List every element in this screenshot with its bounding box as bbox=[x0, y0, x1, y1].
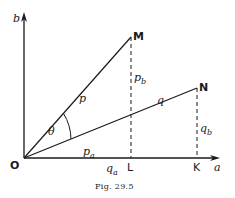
svg-text:p: p bbox=[134, 71, 141, 84]
svg-text:a: a bbox=[113, 168, 118, 177]
figure-caption: Fig. 29.5 bbox=[95, 182, 134, 191]
q-a-label: q a bbox=[106, 162, 118, 177]
point-K-label: K bbox=[193, 161, 201, 174]
svg-text:b: b bbox=[207, 128, 212, 137]
vector-q bbox=[24, 88, 197, 158]
a-axis-label: a bbox=[214, 161, 221, 174]
vector-projection-diagram: b a O p q M N L K p b q b p a q a θ Fig.… bbox=[0, 0, 235, 198]
b-axis-label: b bbox=[13, 12, 20, 25]
svg-text:q: q bbox=[106, 162, 113, 175]
origin-label: O bbox=[10, 159, 19, 172]
vector-p bbox=[24, 37, 131, 158]
vector-q-label: q bbox=[157, 94, 164, 107]
angle-theta-arc bbox=[64, 114, 72, 140]
vector-p-label: p bbox=[79, 92, 86, 105]
point-N-label: N bbox=[199, 81, 208, 94]
point-L-label: L bbox=[127, 161, 134, 174]
p-a-label: p a bbox=[83, 145, 95, 160]
svg-text:p: p bbox=[83, 145, 90, 158]
q-b-label: q b bbox=[200, 122, 212, 137]
svg-text:a: a bbox=[90, 151, 95, 160]
p-b-label: p b bbox=[134, 71, 146, 86]
angle-theta-label: θ bbox=[48, 125, 55, 138]
svg-text:q: q bbox=[200, 122, 207, 135]
point-M-label: M bbox=[133, 30, 144, 43]
svg-text:b: b bbox=[141, 77, 146, 86]
